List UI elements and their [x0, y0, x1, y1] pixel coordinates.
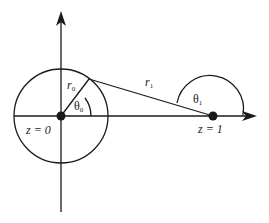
label-z0: z = 0: [26, 124, 51, 136]
point-z1: [209, 112, 218, 121]
theta0-arc: [85, 98, 91, 116]
label-r1: r1: [145, 76, 153, 90]
label-theta1: θ1: [193, 93, 202, 107]
point-z0: [57, 112, 66, 121]
label-theta0: θ0: [74, 100, 83, 114]
theta1-arc: [177, 75, 244, 115]
label-r0: r0: [67, 79, 75, 93]
polar-diagram: [0, 0, 269, 223]
label-z1: z = 1: [198, 123, 223, 135]
